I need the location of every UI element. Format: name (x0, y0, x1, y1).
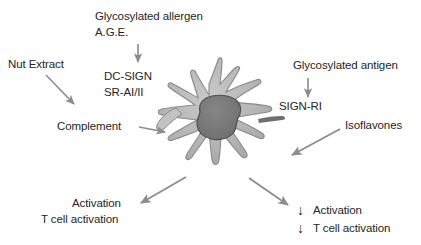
label-glycosylated-allergen: Glycosylated allergen (95, 9, 203, 23)
down-arrow-activation-icon: ↓ (297, 203, 304, 217)
label-age: A.G.E. (95, 25, 128, 39)
arrow-cell-to-activation-right (249, 178, 288, 205)
label-sign-ri: SIGN-RI (279, 99, 322, 113)
label-activation-right: Activation (313, 203, 362, 217)
label-dc-sign: DC-SIGN (104, 69, 152, 83)
down-arrow-t-cell-activation-icon: ↓ (297, 221, 304, 235)
arrow-nut-extract-to-complement (46, 75, 74, 104)
label-sr-ai-ii: SR-AI/II (104, 85, 143, 99)
dendritic-cell-signaling-diagram: Glycosylated allergen A.G.E. Nut Extract… (0, 0, 421, 245)
label-activation-left: Activation (72, 196, 121, 210)
label-glycosylated-antigen: Glycosylated antigen (293, 58, 398, 72)
label-isoflavones: Isoflavones (345, 118, 402, 132)
label-complement: Complement (57, 119, 121, 133)
label-t-cell-activation-left: T cell activation (41, 212, 118, 226)
dendritic-cell (157, 58, 272, 165)
arrow-cell-to-activation-left (141, 177, 186, 203)
arrow-isoflavones-to-cell (292, 129, 340, 155)
label-nut-extract: Nut Extract (8, 57, 64, 71)
decreased-t-cell-activation-row: ↓ T cell activation (297, 221, 390, 235)
sign-ri-receptor-icon (258, 116, 285, 123)
decreased-activation-row: ↓ Activation (297, 203, 362, 217)
label-t-cell-activation-right: T cell activation (313, 221, 390, 235)
